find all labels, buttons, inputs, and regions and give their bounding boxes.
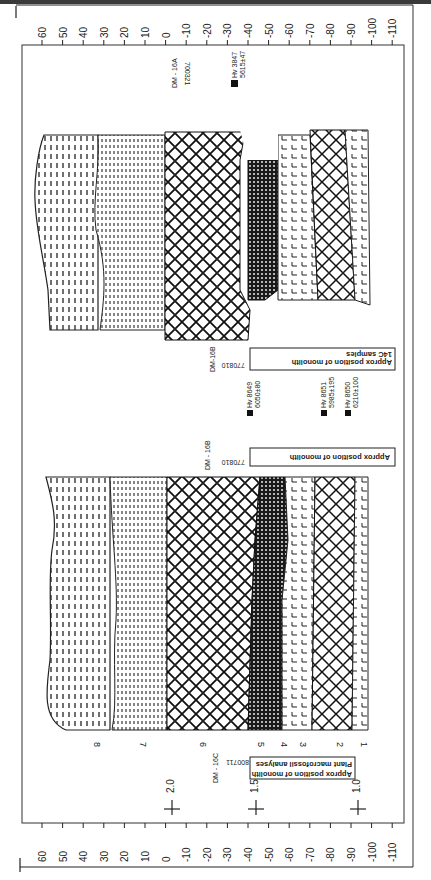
- scale-tick-label: 10: [140, 850, 151, 862]
- svg-text:1: 1: [359, 742, 369, 747]
- svg-text:6210±100: 6210±100: [352, 377, 359, 408]
- scale-tick-label: 50: [58, 850, 69, 862]
- sample-age-hv3847: 5615±47: [239, 51, 246, 78]
- scale-tick-label: 60: [37, 26, 48, 38]
- scale-tick-label: -10: [181, 847, 192, 862]
- svg-text:Hv 8649: Hv 8649: [246, 382, 253, 408]
- scale-tick-label: -70: [305, 23, 316, 38]
- date-code-16a: 700321: [184, 62, 191, 85]
- scale-tick-label: 30: [99, 26, 110, 38]
- core-id-16b-mid: DM-16B: [209, 346, 216, 372]
- date-code-16b-mid: 770810: [222, 362, 245, 369]
- scale-tick-label: -70: [305, 847, 316, 862]
- svg-text:3: 3: [298, 742, 308, 747]
- svg-text:6050±80: 6050±80: [254, 381, 261, 408]
- scale-tick-label: 60: [37, 850, 48, 862]
- svg-text:5985±195: 5985±195: [328, 377, 335, 408]
- top-depth-scale: 6050403020100-10-20-30-40-50-60-70-80-90…: [37, 18, 398, 45]
- svg-text:1.0: 1.0: [351, 779, 362, 793]
- stratigraphy-diagram: 6050403020100-10-20-30-40-50-60-70-80-90…: [0, 0, 431, 880]
- core-id-16b-lower: DM - 16B: [204, 440, 211, 470]
- scale-tick-label: -100: [367, 842, 378, 862]
- layer-numbers: 8 7 6 5 4 3 2 1: [92, 742, 369, 747]
- scale-tick-label: -60: [284, 847, 295, 862]
- svg-text:Hv 8651: Hv 8651: [320, 382, 327, 408]
- monolith-box-lower-line1: Approx position of monolith: [289, 453, 390, 462]
- scale-tick-label: -50: [264, 23, 275, 38]
- lower-profile: [46, 477, 368, 730]
- marker-1-0: 1.0: [350, 779, 366, 815]
- svg-text:5: 5: [256, 742, 266, 747]
- marker-1-5: 1.5: [248, 779, 264, 815]
- scale-tick-label: -50: [264, 847, 275, 862]
- scale-tick-label: 40: [78, 26, 89, 38]
- scale-tick-label: -20: [202, 847, 213, 862]
- scale-tick-label: -30: [222, 847, 233, 862]
- scale-tick-label: -30: [222, 23, 233, 38]
- scale-tick-label: 40: [78, 850, 89, 862]
- svg-text:4: 4: [279, 742, 289, 747]
- core-id-16a: DM - 16A: [171, 58, 178, 88]
- svg-text:2: 2: [335, 742, 345, 747]
- svg-text:2.0: 2.0: [165, 779, 176, 793]
- date-code-16b-lower: 770810: [222, 459, 245, 466]
- sample-hv8650: Hv 8650 6210±100: [344, 377, 359, 416]
- bottom-depth-scale: 6050403020100-10-20-30-40-50-60-70-80-90…: [37, 823, 398, 862]
- scale-tick-label: -60: [284, 23, 295, 38]
- scale-tick-label: 20: [119, 850, 130, 862]
- scale-tick-label: -10: [181, 23, 192, 38]
- scale-tick-label: -100: [367, 18, 378, 38]
- core-id-16c: DM - 16C: [212, 753, 219, 783]
- scale-tick-label: -40: [243, 847, 254, 862]
- sample-marker-hv3847: [231, 80, 238, 87]
- scale-tick-label: 10: [140, 26, 151, 38]
- scale-tick-label: 30: [99, 850, 110, 862]
- sample-hv8649: Hv 8649 6050±80: [246, 381, 261, 416]
- scale-tick-label: -80: [325, 847, 336, 862]
- monolith-box-14c-line2: 14C samples: [346, 350, 392, 359]
- sample-lab-hv3847: Hv 3847: [231, 52, 238, 78]
- svg-text:1.5: 1.5: [249, 779, 260, 793]
- svg-text:Hv 8650: Hv 8650: [344, 382, 351, 408]
- marker-2-0: 2.0: [164, 779, 180, 815]
- svg-text:6: 6: [198, 742, 208, 747]
- scale-tick-label: -20: [202, 23, 213, 38]
- scale-tick-label: 0: [161, 856, 172, 862]
- sample-hv8651: Hv 8651 5985±195: [320, 377, 335, 416]
- scale-tick-label: -90: [346, 847, 357, 862]
- scale-tick-label: -110: [387, 842, 398, 862]
- svg-text:8: 8: [92, 742, 102, 747]
- scale-tick-label: 20: [119, 26, 130, 38]
- date-code-16c: 800711: [226, 759, 249, 766]
- monolith-box-macrofossil-line1: Approx position of monolith: [251, 770, 352, 779]
- scale-tick-label: -90: [346, 23, 357, 38]
- monolith-box-macrofossil-line2: Plant macrofossil analyses: [256, 760, 352, 769]
- scale-tick-label: 50: [58, 26, 69, 38]
- upper-profile: [35, 130, 370, 340]
- scale-tick-label: -80: [325, 23, 336, 38]
- scale-tick-label: -110: [387, 18, 398, 38]
- scale-tick-label: 0: [161, 32, 172, 38]
- svg-text:7: 7: [138, 742, 148, 747]
- scale-tick-label: -40: [243, 23, 254, 38]
